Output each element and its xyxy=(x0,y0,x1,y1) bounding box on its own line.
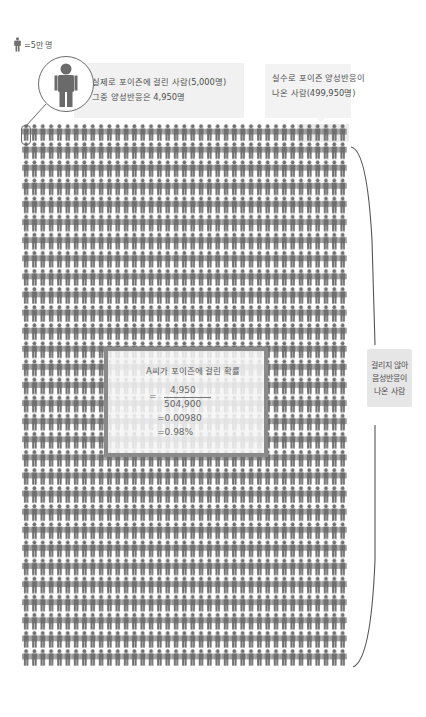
formula-percent: =0.98% xyxy=(157,427,193,437)
true-negative-line3: 나온 사람 xyxy=(367,385,412,398)
false-positive-callout: 실수로 포이즌 양성반응이 나온 사람(499,950명) xyxy=(272,71,365,101)
legend: =5만 명 xyxy=(14,37,52,52)
false-positive-callout-line1: 실수로 포이즌 양성반응이 xyxy=(272,71,365,86)
person-icon-large xyxy=(39,57,93,111)
infected-callout: 실제로 포이즌에 걸린 사람(5,000명) 그중 양성반응은 4,950명 xyxy=(92,75,226,105)
fraction-line xyxy=(164,397,211,398)
false-positive-pointer xyxy=(316,117,326,122)
infected-callout-line1: 실제로 포이즌에 걸린 사람(5,000명) xyxy=(92,75,226,90)
true-negative-label: 걸리지 않아 음성반응이 나온 사람 xyxy=(367,349,412,407)
formula-title: A씨가 포이즌에 걸린 확률 xyxy=(146,364,240,376)
person-icon xyxy=(14,37,21,52)
zoom-circle xyxy=(38,56,94,112)
false-positive-callout-line2: 나온 사람(499,950명) xyxy=(272,86,365,101)
legend-text: =5만 명 xyxy=(24,39,52,50)
formula-decimal: =0.00980 xyxy=(157,413,202,423)
formula-denominator: 504,900 xyxy=(164,399,201,409)
formula-numerator: 4,950 xyxy=(170,385,196,395)
formula-equals: = xyxy=(149,391,157,401)
infected-callout-line2: 그중 양성반응은 4,950명 xyxy=(92,90,226,105)
true-negative-line1: 걸리지 않아 xyxy=(367,359,412,372)
true-negative-line2: 음성반응이 xyxy=(367,372,412,385)
